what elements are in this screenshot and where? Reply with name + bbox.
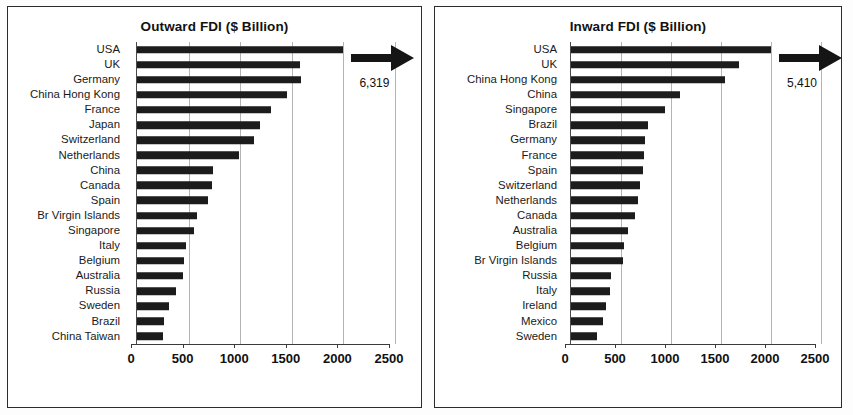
gridline	[721, 193, 722, 208]
axis-tick	[715, 344, 716, 348]
gridline	[189, 314, 190, 329]
category-label: Spain	[8, 195, 125, 206]
gridline	[240, 284, 241, 299]
bar-track	[136, 163, 395, 178]
bar-row: Mexico	[435, 314, 841, 329]
bar-track	[136, 268, 395, 283]
bar	[137, 167, 213, 175]
bar-track	[136, 299, 395, 314]
gridline	[395, 193, 396, 208]
gridline	[721, 284, 722, 299]
gridline	[671, 238, 672, 253]
gridline	[395, 102, 396, 117]
bar	[571, 106, 665, 114]
axis-tick	[234, 344, 235, 348]
gridline	[821, 238, 822, 253]
category-label: Italy	[8, 240, 125, 251]
gridline	[771, 299, 772, 314]
category-label: China	[435, 89, 562, 100]
gridline	[771, 57, 772, 72]
gridline	[671, 268, 672, 283]
gridline	[240, 238, 241, 253]
gridline	[240, 223, 241, 238]
category-label: Sweden	[435, 331, 562, 342]
gridline	[821, 178, 822, 193]
category-label: Switzerland	[435, 180, 562, 191]
gridline	[821, 299, 822, 314]
x-axis-scale-outward: 05001000150020002500	[131, 344, 389, 370]
axis-tick-label: 1000	[220, 351, 249, 366]
bar-track	[136, 42, 395, 57]
gridline	[671, 223, 672, 238]
gridline	[292, 193, 293, 208]
gridline	[721, 268, 722, 283]
bar	[137, 61, 300, 69]
bar	[571, 136, 645, 144]
gridline	[240, 268, 241, 283]
bar	[571, 287, 610, 295]
gridline	[395, 57, 396, 72]
bar-track	[570, 102, 821, 117]
gridline	[671, 299, 672, 314]
gridline	[771, 329, 772, 344]
bar-track	[136, 133, 395, 148]
bar-track	[136, 238, 395, 253]
bar-row: China	[435, 87, 841, 102]
gridline	[671, 163, 672, 178]
bar-track	[136, 178, 395, 193]
gridline	[240, 178, 241, 193]
bar-track	[570, 193, 821, 208]
bar-track	[136, 223, 395, 238]
bar	[137, 197, 208, 205]
bar	[571, 151, 644, 159]
axis-tick	[665, 344, 666, 348]
gridline	[771, 102, 772, 117]
bar-row: Italy	[8, 238, 421, 253]
bar	[571, 242, 624, 250]
bar-track	[570, 163, 821, 178]
axis-tick	[183, 344, 184, 348]
gridline	[771, 163, 772, 178]
gridline	[821, 223, 822, 238]
gridline	[292, 102, 293, 117]
category-label: UK	[8, 59, 125, 70]
gridline	[821, 314, 822, 329]
bar	[137, 333, 163, 341]
bar	[137, 91, 287, 99]
gridline	[721, 148, 722, 163]
gridline	[721, 238, 722, 253]
bar-row: Brazil	[8, 314, 421, 329]
category-label: Canada	[8, 180, 125, 191]
axis-line	[565, 344, 815, 345]
axis-tick-label: 2000	[323, 351, 352, 366]
chart-panel-outward: Outward FDI ($ Billion) USAUKGermanyChin…	[7, 6, 422, 408]
figure-container: Outward FDI ($ Billion) USAUKGermanyChin…	[0, 0, 853, 415]
category-label: China Hong Kong	[435, 74, 562, 85]
category-label: Netherlands	[8, 150, 125, 161]
axis-tick	[389, 344, 390, 348]
gridline	[395, 148, 396, 163]
bar-track	[570, 57, 821, 72]
bar-track	[570, 299, 821, 314]
bar-row: Canada	[435, 208, 841, 223]
bar-track	[570, 133, 821, 148]
bar-rows-inward: USAUKChina Hong KongChinaSingaporeBrazil…	[435, 42, 841, 344]
gridline	[671, 284, 672, 299]
gridline	[395, 223, 396, 238]
gridline	[395, 133, 396, 148]
bar-row: Australia	[8, 268, 421, 283]
gridline	[343, 208, 344, 223]
gridline	[621, 314, 622, 329]
gridline	[671, 117, 672, 132]
gridline	[343, 223, 344, 238]
gridline	[771, 193, 772, 208]
bar	[571, 61, 739, 69]
gridlines	[137, 299, 395, 314]
bar-row: Japan	[8, 117, 421, 132]
bar-row: Br Virgin Islands	[8, 208, 421, 223]
axis-tick-label: 1000	[651, 351, 680, 366]
axis-tick-label: 1500	[271, 351, 300, 366]
bar-row: Ireland	[435, 299, 841, 314]
gridline	[343, 193, 344, 208]
gridline	[671, 329, 672, 344]
